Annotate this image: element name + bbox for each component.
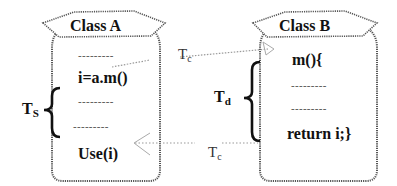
ts-label: TS bbox=[22, 101, 39, 119]
class-a-use-statement: Use(i) bbox=[78, 146, 118, 162]
tc-return-label-sub: c bbox=[217, 151, 221, 162]
diagram-canvas bbox=[0, 0, 397, 186]
td-brace-icon bbox=[244, 62, 260, 141]
tc-return-label: Tc bbox=[208, 145, 222, 162]
class-b-line-2: --------- bbox=[291, 80, 327, 91]
tc-return-label-main: T bbox=[208, 144, 217, 160]
class-b-return-statement: return i;} bbox=[287, 126, 351, 142]
call-arrow-head bbox=[263, 42, 274, 55]
ts-label-sub: S bbox=[33, 107, 39, 119]
td-label-sub: d bbox=[225, 95, 231, 107]
class-a-call-statement: i=a.m() bbox=[78, 70, 128, 86]
tc-call-label-sub: c bbox=[187, 53, 191, 64]
tc-call-label-main: T bbox=[178, 46, 187, 62]
class-a-line-3: --------- bbox=[78, 96, 114, 107]
class-b-method-start: m(){ bbox=[292, 52, 322, 68]
tc-call-label: Tc bbox=[178, 47, 192, 64]
td-label-main: T bbox=[214, 88, 225, 105]
class-a-line-1: --------- bbox=[78, 50, 114, 61]
return-arrow-head bbox=[134, 133, 150, 155]
class-a-line-4: --------- bbox=[73, 121, 109, 132]
class-b-line-3: --------- bbox=[291, 103, 327, 114]
class-b-title: Class B bbox=[279, 18, 330, 34]
class-a-title: Class A bbox=[70, 18, 121, 34]
ts-label-main: T bbox=[22, 100, 33, 117]
td-label: Td bbox=[214, 89, 231, 107]
ts-brace-icon bbox=[44, 88, 60, 137]
